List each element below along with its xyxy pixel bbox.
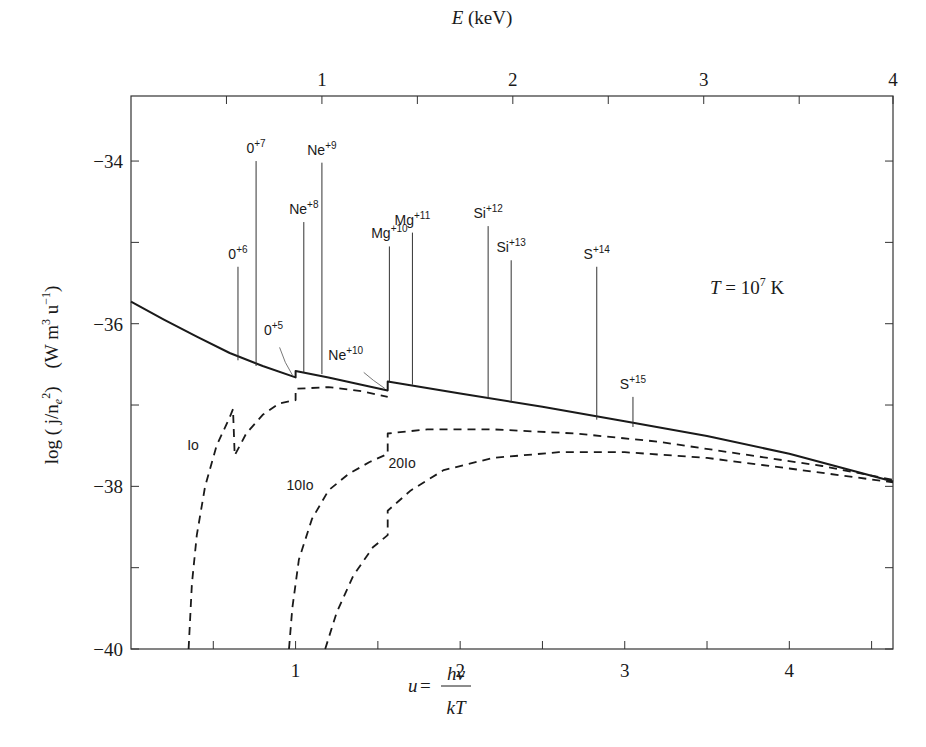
emission-line-label: S+15 <box>620 374 647 392</box>
emission-line-label: S+14 <box>584 244 611 262</box>
x-axis-title: u = hν kT <box>408 663 471 718</box>
emission-line-label: Ne+8 <box>289 199 319 217</box>
top-tick-label: 1 <box>317 69 327 90</box>
top-axis-title: E (keV) <box>451 7 513 29</box>
x-axis-title-lhs: u <box>408 675 418 696</box>
emission-line-label: Mg+11 <box>395 210 431 228</box>
series-total <box>131 302 893 482</box>
x-axis-title-numerator: hν <box>447 663 466 684</box>
edge-label: Ne+10 <box>328 345 363 363</box>
emissivity-chart: 12341234−34−36−38−40 0+60+7Ne+8Ne+9Mg+10… <box>0 0 926 747</box>
emission-line-label: Si+13 <box>496 237 526 255</box>
series-label: Io <box>187 437 199 453</box>
plot-frame <box>131 96 893 649</box>
y-tick-label: −34 <box>93 151 123 172</box>
top-tick-label: 2 <box>508 69 518 90</box>
svg-text:log ( j/ne2)(W m3 u−1): log ( j/ne2)(W m3 u−1) <box>39 286 65 465</box>
x-axis-title-eq: = <box>420 675 431 696</box>
emission-line-label: Si+12 <box>473 203 503 221</box>
edge-leader-line <box>280 347 293 375</box>
y-tick-label: −40 <box>93 639 123 660</box>
y-tick-label: −36 <box>93 314 123 335</box>
series-label: 10Io <box>286 477 313 493</box>
x-tick-label: 4 <box>785 660 795 681</box>
emission-line-label: 0+6 <box>228 244 248 262</box>
series-20io <box>325 452 893 649</box>
x-tick-label: 1 <box>291 660 301 681</box>
x-tick-label: 3 <box>620 660 630 681</box>
top-tick-label: 3 <box>699 69 709 90</box>
edge-label: 0+5 <box>264 320 284 338</box>
x-axis-title-denominator: kT <box>447 697 467 718</box>
emission-line-label: 0+7 <box>246 138 266 156</box>
y-tick-label: −38 <box>93 476 123 497</box>
series-10io <box>289 429 893 649</box>
series-label: 20Io <box>388 455 415 471</box>
emission-line-label: Ne+9 <box>307 140 337 158</box>
top-tick-label: 4 <box>888 69 898 90</box>
series-io <box>189 387 388 649</box>
y-axis-title: log ( j/ne2)(W m3 u−1) <box>39 286 65 465</box>
temperature-annotation: T = 107 K <box>710 275 785 298</box>
